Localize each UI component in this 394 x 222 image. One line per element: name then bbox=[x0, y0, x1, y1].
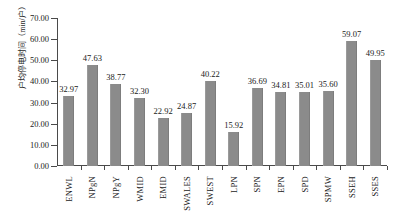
y-tick-mark bbox=[51, 166, 57, 167]
bar-value-label: 59.07 bbox=[342, 29, 361, 39]
bar-group: 38.77NPgY bbox=[110, 18, 121, 166]
bar-group: 24.87SWALES bbox=[181, 18, 192, 166]
x-tick-label: LPN bbox=[229, 176, 239, 193]
bar-chart-figure: 户均停电时间（min/户） 0.0010.0020.0030.0040.0050… bbox=[0, 0, 394, 222]
y-tick-label: 30.00 bbox=[30, 98, 49, 108]
x-tick-label: SWALES bbox=[182, 176, 192, 211]
x-tick-mark bbox=[246, 166, 247, 170]
bar-value-label: 47.63 bbox=[83, 53, 102, 63]
bar[interactable]: 49.95 bbox=[370, 60, 381, 166]
x-tick-label: SPN bbox=[252, 176, 262, 193]
bar[interactable]: 32.30 bbox=[134, 98, 145, 166]
y-tick-mark bbox=[51, 60, 57, 61]
bar-group: 15.92LPN bbox=[228, 18, 239, 166]
bar[interactable]: 35.60 bbox=[323, 91, 334, 166]
bar[interactable]: 22.92 bbox=[158, 118, 169, 166]
x-tick-mark bbox=[363, 166, 364, 170]
x-tick-label: WMID bbox=[135, 176, 145, 202]
x-tick-mark bbox=[128, 166, 129, 170]
x-tick-label: NPgN bbox=[87, 176, 97, 198]
bar[interactable]: 59.07 bbox=[346, 41, 357, 166]
bar[interactable]: 40.22 bbox=[205, 81, 216, 166]
y-tick-mark bbox=[51, 145, 57, 146]
x-tick-mark bbox=[222, 166, 223, 170]
bar-group: 34.81EPN bbox=[275, 18, 286, 166]
x-tick-mark bbox=[81, 166, 82, 170]
x-tick-label: SSES bbox=[370, 176, 380, 197]
bar[interactable]: 47.63 bbox=[87, 65, 98, 166]
x-tick-label: SWEST bbox=[205, 176, 215, 205]
bar-group: 59.07SSEH bbox=[346, 18, 357, 166]
bar-value-label: 35.60 bbox=[319, 79, 338, 89]
bar[interactable]: 32.97 bbox=[63, 96, 74, 166]
x-tick-mark bbox=[316, 166, 317, 170]
x-tick-label: NPgY bbox=[111, 176, 121, 198]
plot-area: 0.0010.0020.0030.0040.0050.0060.0070.00 … bbox=[57, 18, 387, 166]
x-tick-label: EPN bbox=[276, 176, 286, 193]
bar-group: 22.92EMID bbox=[158, 18, 169, 166]
x-tick-mark bbox=[151, 166, 152, 170]
bar-group: 47.63NPgN bbox=[87, 18, 98, 166]
x-tick-mark bbox=[175, 166, 176, 170]
bar[interactable]: 34.81 bbox=[275, 92, 286, 166]
bar-group: 32.97ENWL bbox=[63, 18, 74, 166]
y-axis-line bbox=[57, 18, 58, 166]
bar-group: 32.30WMID bbox=[134, 18, 145, 166]
bar[interactable]: 15.92 bbox=[228, 132, 239, 166]
bar-value-label: 15.92 bbox=[224, 120, 243, 130]
y-tick-mark bbox=[51, 103, 57, 104]
x-tick-mark bbox=[387, 166, 388, 170]
bar-value-label: 32.97 bbox=[59, 84, 78, 94]
bar[interactable]: 36.69 bbox=[252, 88, 263, 166]
y-tick-label: 0.00 bbox=[34, 161, 49, 171]
bar[interactable]: 38.77 bbox=[110, 84, 121, 166]
y-tick-label: 10.00 bbox=[30, 140, 49, 150]
bar-value-label: 24.87 bbox=[177, 101, 196, 111]
y-tick-label: 40.00 bbox=[30, 76, 49, 86]
x-tick-mark bbox=[104, 166, 105, 170]
y-tick-label: 20.00 bbox=[30, 119, 49, 129]
bar-group: 35.01SPD bbox=[299, 18, 310, 166]
x-tick-mark bbox=[269, 166, 270, 170]
x-tick-label: SSEH bbox=[347, 176, 357, 198]
y-tick-mark bbox=[51, 18, 57, 19]
x-tick-mark bbox=[340, 166, 341, 170]
bar-group: 35.60SPMW bbox=[323, 18, 334, 166]
bar-value-label: 40.22 bbox=[201, 69, 220, 79]
bar-value-label: 34.81 bbox=[271, 80, 290, 90]
bar-value-label: 36.69 bbox=[248, 76, 267, 86]
y-tick-mark bbox=[51, 39, 57, 40]
x-tick-mark bbox=[198, 166, 199, 170]
x-tick-mark bbox=[293, 166, 294, 170]
bar-value-label: 35.01 bbox=[295, 80, 314, 90]
bar-group: 40.22SWEST bbox=[205, 18, 216, 166]
x-tick-label: ENWL bbox=[64, 176, 74, 202]
x-tick-label: SPMW bbox=[323, 176, 333, 202]
bar-value-label: 22.92 bbox=[154, 106, 173, 116]
x-tick-label: SPD bbox=[300, 176, 310, 193]
y-tick-mark bbox=[51, 124, 57, 125]
bar-group: 49.95SSES bbox=[370, 18, 381, 166]
y-tick-label: 70.00 bbox=[30, 13, 49, 23]
bar-value-label: 49.95 bbox=[366, 48, 385, 58]
y-axis-title: 户均停电时间（min/户） bbox=[16, 0, 27, 111]
bar-value-label: 38.77 bbox=[106, 72, 125, 82]
y-tick-mark bbox=[51, 81, 57, 82]
bar[interactable]: 35.01 bbox=[299, 92, 310, 166]
y-tick-label: 50.00 bbox=[30, 55, 49, 65]
bar-value-label: 32.30 bbox=[130, 86, 149, 96]
bar-group: 36.69SPN bbox=[252, 18, 263, 166]
y-tick-label: 60.00 bbox=[30, 34, 49, 44]
x-tick-label: EMID bbox=[158, 176, 168, 199]
bar[interactable]: 24.87 bbox=[181, 113, 192, 166]
